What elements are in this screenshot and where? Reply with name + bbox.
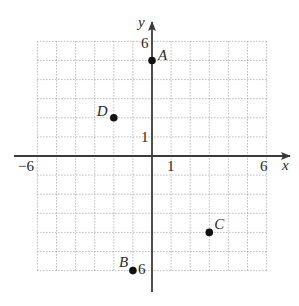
x-tick-label-neg6: −6: [18, 158, 34, 174]
point-label: D: [96, 103, 108, 119]
point-d: D: [96, 103, 118, 122]
point-label: A: [157, 47, 168, 63]
y-tick-label-neg6: 6: [138, 261, 146, 277]
point-marker: [110, 114, 118, 122]
y-tick-label-1: 1: [141, 129, 149, 145]
y-axis-label: y: [136, 14, 145, 30]
point-marker: [148, 57, 156, 65]
x-tick-label-1: 1: [167, 158, 175, 174]
point-marker: [129, 267, 137, 275]
x-tick-label-6: 6: [260, 158, 268, 174]
data-points: ABCD: [96, 47, 226, 275]
point-b: B: [119, 254, 137, 275]
y-tick-label-6: 6: [141, 35, 149, 51]
point-label: C: [214, 216, 225, 232]
point-c: C: [206, 216, 226, 236]
x-axis-label: x: [281, 157, 289, 173]
coordinate-plane: x y −6 1 6 6 1 6 ABCD: [0, 0, 299, 306]
point-label: B: [119, 254, 128, 270]
point-marker: [206, 229, 214, 237]
